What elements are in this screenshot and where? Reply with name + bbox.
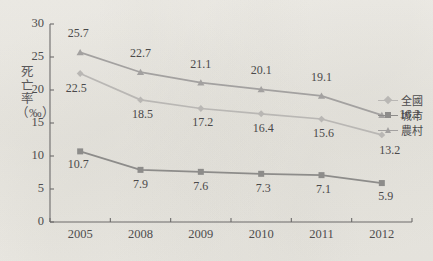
- legend-label: 農村: [401, 122, 423, 138]
- y-tick-label: 25: [18, 49, 44, 64]
- legend-item-農村[interactable]: 農村: [378, 124, 423, 136]
- x-tick-label-2012: 2012: [354, 227, 410, 242]
- data-label: 16.4: [241, 121, 285, 136]
- y-tick-label: 10: [18, 148, 44, 163]
- data-label: 5.9: [364, 189, 408, 204]
- legend-label: 城市: [401, 107, 423, 123]
- data-label: 22.7: [119, 46, 163, 61]
- data-label: 19.1: [300, 70, 344, 85]
- legend-triangle-marker-icon: [378, 125, 398, 135]
- data-label: 20.1: [239, 63, 283, 78]
- legend-square-marker-icon: [378, 110, 398, 120]
- data-label: 22.5: [54, 81, 98, 96]
- data-label: 15.6: [302, 126, 346, 141]
- y-tick-label: 5: [18, 181, 44, 196]
- legend-item-城市[interactable]: 城市: [378, 109, 423, 121]
- y-tick-label: 0: [18, 214, 44, 229]
- x-tick-label-2005: 2005: [52, 227, 108, 242]
- data-label: 21.1: [179, 57, 223, 72]
- x-tick-label-2011: 2011: [294, 227, 350, 242]
- x-tick-label-2008: 2008: [113, 227, 169, 242]
- data-label: 7.1: [302, 182, 346, 197]
- data-label: 25.7: [56, 26, 100, 41]
- legend-item-全國[interactable]: 全國: [378, 94, 423, 106]
- data-label: 10.7: [56, 157, 100, 172]
- y-tick-label: 30: [18, 16, 44, 31]
- x-tick-label-2010: 2010: [233, 227, 289, 242]
- y-tick-label: 15: [18, 115, 44, 130]
- data-label: 7.6: [179, 179, 223, 194]
- mortality-rate-line-chart: 死亡率（‰） 051015202530 20052008200920102011…: [0, 0, 433, 261]
- x-tick-label-2009: 2009: [173, 227, 229, 242]
- data-label: 7.9: [119, 177, 163, 192]
- legend-diamond-marker-icon: [378, 95, 398, 105]
- chart-legend: 全國城市農村: [378, 94, 423, 136]
- data-label: 17.2: [181, 115, 225, 130]
- data-label: 7.3: [241, 181, 285, 196]
- legend-label: 全國: [401, 92, 423, 108]
- y-tick-label: 20: [18, 82, 44, 97]
- data-label: 13.2: [368, 143, 412, 158]
- data-label: 18.5: [121, 107, 165, 122]
